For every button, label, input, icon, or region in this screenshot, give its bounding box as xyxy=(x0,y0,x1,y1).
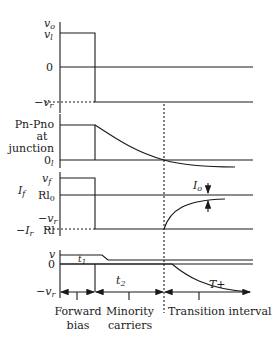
label-vf: vf xyxy=(42,172,53,186)
label-t-plus: T+ xyxy=(209,278,226,291)
carrier-decay-curve xyxy=(95,125,235,167)
label-pn-pno: Pn-Pno xyxy=(15,118,55,131)
label-rl: Rl xyxy=(43,224,55,237)
current-recovery-curve xyxy=(164,199,225,229)
carrier-level-trace xyxy=(60,125,95,160)
diode-switching-waveform-diagram: vo vl 0 −vr Pn-Pno at junction 0l vf If … xyxy=(0,0,277,349)
label-neg-vr-panel4: −vr xyxy=(36,285,56,299)
voltage-upper-trace xyxy=(60,255,253,260)
panel-carrier-concentration xyxy=(60,114,253,168)
label-if: If xyxy=(17,184,27,198)
caption-forward: Forward xyxy=(54,305,101,318)
caption-transition-interval: Transition interval xyxy=(168,305,272,318)
label-t2: t2 xyxy=(116,274,126,288)
caption-minority: Minority xyxy=(106,305,155,318)
label-zero-panel4: 0 xyxy=(48,258,55,271)
current-step-trace xyxy=(60,178,253,229)
caption-bias: bias xyxy=(67,319,90,332)
label-neg-vr-panel1: −vr xyxy=(34,96,54,110)
panel-applied-voltage xyxy=(45,22,253,113)
label-neg-ir: −Ir xyxy=(16,224,35,238)
panel-current xyxy=(45,172,253,236)
panel-diode-voltage xyxy=(60,250,253,300)
label-io: Io xyxy=(192,179,202,193)
label-zero-panel2: 0l xyxy=(44,154,54,168)
label-rl0: Rl0 xyxy=(38,189,55,203)
label-zero-panel1: 0 xyxy=(46,61,53,74)
caption-carriers: carriers xyxy=(108,319,153,332)
